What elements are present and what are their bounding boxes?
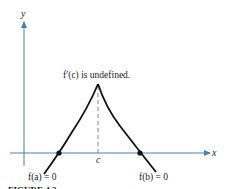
peak-annotation: f′(c) is undefined. — [63, 70, 130, 81]
curve-left-branch — [44, 84, 98, 174]
root-point-a — [56, 150, 61, 155]
root-point-b — [137, 150, 142, 155]
root-b-label: f(b) = 0 — [139, 172, 168, 183]
curve-right-branch — [98, 84, 156, 172]
c-tick-label: c — [96, 155, 101, 165]
root-a-label: f(a) = 0 — [28, 172, 57, 183]
diagram-canvas: y x f′(c) is undefined. c f(a) = 0 f(b) … — [0, 0, 226, 189]
x-axis-label: x — [211, 147, 217, 158]
figure-caption: FIGURE 4.2 — [8, 185, 57, 189]
y-axis-label: y — [20, 8, 26, 19]
